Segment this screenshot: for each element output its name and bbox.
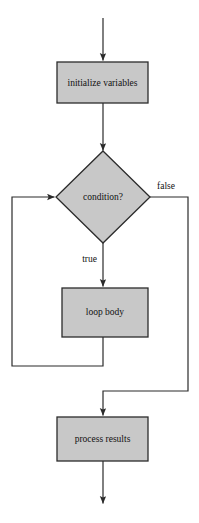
node-condition-label: condition? xyxy=(83,192,123,202)
node-loop-body-label: loop body xyxy=(86,307,125,317)
node-loop-body[interactable]: loop body xyxy=(62,288,148,337)
edge-label-false: false xyxy=(157,181,175,191)
node-condition[interactable]: condition? xyxy=(56,151,150,243)
node-process-results-label: process results xyxy=(75,434,131,444)
node-process-results[interactable]: process results xyxy=(57,417,148,461)
flowchart-diagram: initialize variables condition? loop bod… xyxy=(0,0,199,523)
edge-label-true: true xyxy=(82,254,97,264)
node-initialize-variables-label: initialize variables xyxy=(68,78,138,88)
flowchart-svg: initialize variables condition? loop bod… xyxy=(0,0,199,523)
node-initialize-variables[interactable]: initialize variables xyxy=(57,62,148,103)
